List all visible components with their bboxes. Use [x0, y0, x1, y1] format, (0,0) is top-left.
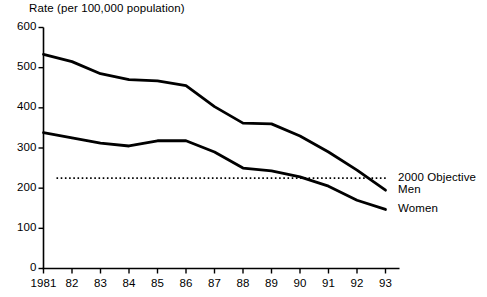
series-label-2000-objective: 2000 Objective — [398, 171, 476, 183]
y-axis-tick-label: 600 — [3, 20, 37, 32]
chart-plot-area — [0, 0, 487, 297]
y-axis-tick-label: 200 — [3, 181, 37, 193]
y-axis-tick-label: 500 — [3, 60, 37, 72]
series-label-men: Men — [398, 183, 421, 195]
chart-series — [44, 54, 387, 209]
series-label-women: Women — [398, 202, 438, 214]
y-axis-tick-label: 0 — [3, 261, 37, 273]
series-line-women — [44, 133, 386, 210]
y-axis-tick-label: 100 — [3, 221, 37, 233]
x-axis-tick-label: 93 — [361, 277, 411, 289]
series-line-men — [44, 54, 386, 190]
y-axis-tick-label: 400 — [3, 100, 37, 112]
line-chart: Rate (per 100,000 population) 0100200300… — [0, 0, 487, 297]
y-axis-tick-label: 300 — [3, 141, 37, 153]
chart-annotation-leaders — [386, 190, 394, 209]
chart-axes — [39, 28, 400, 274]
